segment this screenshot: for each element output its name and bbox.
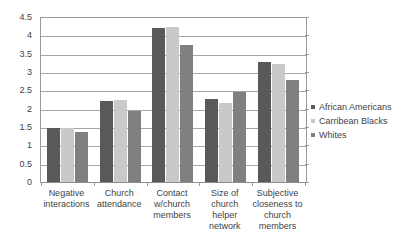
bar xyxy=(258,62,271,182)
bar xyxy=(180,45,193,183)
x-axis-category-label: Size of churchhelpernetwork xyxy=(198,188,251,232)
y-axis-tick-mark xyxy=(305,54,309,55)
y-axis-tick-mark xyxy=(305,164,309,165)
y-axis-tick-label: 2 xyxy=(27,104,32,113)
y-axis-tick-mark xyxy=(305,90,309,91)
bar-group xyxy=(94,17,147,182)
x-axis-tick-mark xyxy=(252,182,253,186)
x-axis-label-line: Contact xyxy=(146,188,199,199)
bar-group xyxy=(147,17,200,182)
bar xyxy=(272,64,285,182)
x-axis-tick-mark xyxy=(94,182,95,186)
x-axis-label-line: interactions xyxy=(40,199,93,210)
y-axis-tick-label: 3 xyxy=(27,68,32,77)
bar xyxy=(166,27,179,182)
x-axis-tick-mark xyxy=(305,182,306,186)
bar xyxy=(75,132,88,182)
x-axis-label-line: members xyxy=(146,210,199,221)
bar xyxy=(114,100,127,183)
y-axis-tick-label: 2.5 xyxy=(19,86,32,95)
bar xyxy=(61,128,74,182)
bar xyxy=(205,99,218,182)
y-axis-tick-mark xyxy=(305,145,309,146)
x-axis-label-line: members xyxy=(251,221,304,232)
x-axis-label-line: helper xyxy=(198,210,251,221)
legend-label: African Americans xyxy=(319,102,392,112)
x-axis-tick-mark xyxy=(147,182,148,186)
y-axis-tick-mark xyxy=(305,35,309,36)
x-axis-category-label: Subjectivecloseness tochurchmembers xyxy=(251,188,304,232)
x-axis-label-line: closeness to xyxy=(251,199,304,210)
y-axis: 00.511.522.533.544.5 xyxy=(0,17,36,182)
y-axis-tick-mark xyxy=(305,109,309,110)
y-axis-tick-label: 3.5 xyxy=(19,49,32,58)
y-axis-tick-mark xyxy=(305,72,309,73)
x-axis-label-line: Subjective xyxy=(251,188,304,199)
y-axis-tick-label: 1 xyxy=(27,141,32,150)
x-axis-label-line: w/church xyxy=(146,199,199,210)
x-axis-category-label: Contactw/churchmembers xyxy=(146,188,199,221)
y-axis-tick-label: 0 xyxy=(27,178,32,187)
y-axis-tick-label: 1.5 xyxy=(19,123,32,132)
x-axis-category-label: Negativeinteractions xyxy=(40,188,93,210)
bar xyxy=(128,111,141,182)
x-axis-category-label: Churchattendance xyxy=(93,188,146,210)
legend-swatch-icon xyxy=(311,119,315,123)
legend-item: Carribean Blacks xyxy=(311,114,414,127)
bar-group xyxy=(199,17,252,182)
legend-label: Carribean Blacks xyxy=(319,116,388,126)
bar-group xyxy=(252,17,305,182)
bars-layer xyxy=(41,17,305,182)
legend-swatch-icon xyxy=(311,133,315,137)
bar xyxy=(152,28,165,182)
axis-baseline xyxy=(41,182,306,183)
x-axis-tick-mark xyxy=(199,182,200,186)
y-axis-tick-mark xyxy=(305,17,309,18)
x-axis-label-line: network xyxy=(198,221,251,232)
bar xyxy=(219,103,232,182)
legend-item: African Americans xyxy=(311,100,414,113)
bar-chart: 00.511.522.533.544.5 Negativeinteraction… xyxy=(0,0,414,248)
y-axis-tick-label: 0.5 xyxy=(19,159,32,168)
bar xyxy=(47,128,60,182)
bar xyxy=(233,92,246,182)
y-axis-tick-label: 4 xyxy=(27,31,32,40)
x-axis-label-line: Church xyxy=(93,188,146,199)
x-axis-tick-mark xyxy=(41,182,42,186)
chart-legend: African AmericansCarribean BlacksWhites xyxy=(311,100,414,142)
bar-group xyxy=(41,17,94,182)
x-axis-label-line: attendance xyxy=(93,199,146,210)
legend-label: Whites xyxy=(319,130,347,140)
legend-swatch-icon xyxy=(311,105,315,109)
x-axis-label-line: Size of church xyxy=(198,188,251,210)
x-axis-label-line: church xyxy=(251,210,304,221)
y-axis-tick-label: 4.5 xyxy=(19,13,32,22)
x-axis: NegativeinteractionsChurchattendanceCont… xyxy=(40,188,306,246)
bar xyxy=(100,101,113,182)
bar xyxy=(286,80,299,182)
legend-item: Whites xyxy=(311,128,414,141)
x-axis-label-line: Negative xyxy=(40,188,93,199)
y-axis-tick-mark xyxy=(305,127,309,128)
